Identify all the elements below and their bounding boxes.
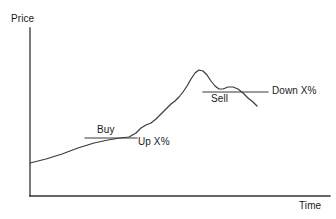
buy-annotation-label: Buy (97, 124, 115, 135)
y-axis-label: Price (11, 13, 34, 24)
sell-annotation-label: Sell (211, 93, 228, 104)
x-axis-label: Time (299, 200, 321, 211)
down-percent-annotation-label: Down X% (272, 85, 317, 96)
price-curve (30, 70, 257, 163)
price-series-group (30, 70, 257, 163)
chart-canvas (0, 0, 336, 219)
price-chart-diagram: Price Time Buy Up X% Sell Down X% (0, 0, 336, 219)
up-percent-annotation-label: Up X% (138, 136, 170, 147)
axes-group (30, 28, 330, 196)
